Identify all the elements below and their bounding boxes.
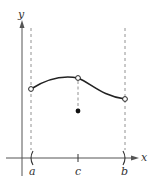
open-point-a — [29, 87, 34, 92]
open-point-c — [76, 76, 81, 81]
y-axis: y — [17, 8, 25, 176]
x-axis: x — [6, 151, 148, 164]
filled-point-c — [76, 109, 81, 114]
y-axis-label: y — [17, 8, 25, 21]
open-point-b — [123, 97, 128, 102]
y-axis-arrow-icon — [20, 20, 25, 28]
tick-label-c: c — [75, 165, 81, 178]
tick-label-b: b — [121, 165, 128, 178]
x-axis-arrow-icon — [131, 156, 139, 161]
tick-label-a: a — [29, 165, 36, 178]
function-discontinuity-diagram: y x a c b — [0, 0, 154, 188]
x-axis-label: x — [141, 151, 148, 164]
